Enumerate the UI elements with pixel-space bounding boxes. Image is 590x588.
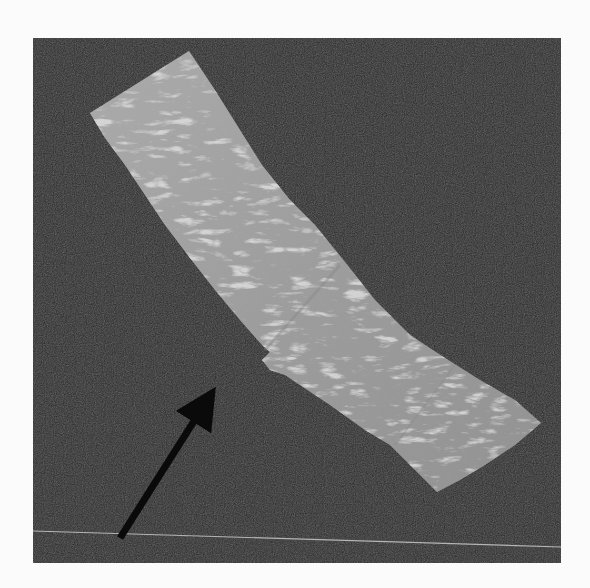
figure: Grayscale rendering of a textured elonga… <box>0 0 590 588</box>
figure-svg <box>0 0 590 588</box>
